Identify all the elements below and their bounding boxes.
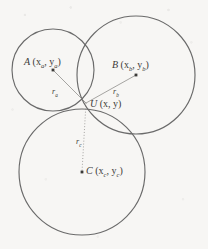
point-label-u: U (x, y) — [90, 99, 121, 109]
radius-rb-sub: b — [116, 92, 119, 98]
center-dot-b — [135, 74, 138, 77]
radius-ra-sub: a — [55, 92, 58, 98]
point-a-coords-close: ) — [58, 56, 61, 67]
radius-rc-sub: c — [79, 142, 81, 148]
point-c-coords-close: ) — [119, 165, 122, 176]
radius-line-rc — [82, 103, 86, 172]
point-u-coords-close: ) — [118, 98, 121, 109]
point-label-c: C (xc, yc) — [86, 166, 123, 176]
point-u-coords-mid: , y — [108, 98, 118, 109]
point-u-coords-open: (x — [97, 98, 108, 109]
center-dot-a — [52, 69, 55, 72]
point-a-coords-mid: , y — [44, 56, 54, 67]
radius-label-rc: rc — [76, 138, 81, 146]
point-label-a: A (xa, ya) — [24, 57, 61, 67]
point-c-name: C — [86, 165, 93, 176]
point-b-coords-mid: , y — [132, 59, 142, 70]
point-c-coords-open: (x — [93, 165, 104, 176]
point-label-b: B (xb, yb) — [112, 60, 149, 70]
point-b-coords-open: (x — [118, 59, 129, 70]
center-dot-c — [81, 171, 84, 174]
radius-label-rb: rb — [113, 88, 119, 96]
point-c-coords-mid: , y — [106, 165, 116, 176]
radius-line-ra — [53, 70, 86, 103]
radius-label-ra: ra — [52, 88, 58, 96]
figure-canvas — [0, 0, 208, 249]
geometry-figure: A (xa, ya) B (xb, yb) U (x, y) C (xc, yc… — [0, 0, 208, 249]
point-b-coords-close: ) — [146, 59, 149, 70]
point-a-coords-open: (x — [30, 56, 41, 67]
